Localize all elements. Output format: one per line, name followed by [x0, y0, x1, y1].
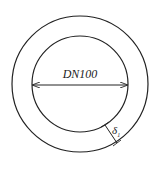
- diameter-label: DN100: [62, 67, 98, 81]
- thickness-subscript: 1: [117, 132, 120, 138]
- pipe-diagram: DN100 δ1: [0, 0, 156, 172]
- thickness-label: δ1: [112, 124, 120, 138]
- thickness-tick-inner: [101, 122, 109, 127]
- inner-circle: [32, 36, 128, 132]
